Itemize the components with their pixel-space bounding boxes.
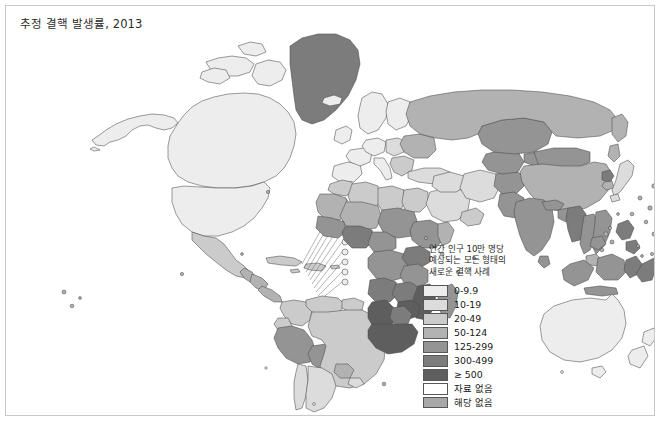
region-alaska [92,114,178,146]
region-uk-ireland [334,126,352,144]
legend-item-300-499[interactable]: 300-499 [423,354,548,367]
region-somalia [438,222,454,246]
region-philippines-luzon [616,220,634,240]
region-north-korea [602,170,614,182]
legend-item-no-data[interactable]: 자료 없음 [423,382,548,395]
region-sakhalin [608,144,620,162]
legend-swatch [423,299,448,310]
legend-heading-line-2: 예상되는 모든 형태의 [429,255,548,266]
region-kamchatka [612,114,628,142]
legend-label: ≥ 500 [454,369,483,380]
region-sumatra [562,260,594,286]
region-scandinavia [358,92,388,134]
figure-frame: 추정 결핵 발생률, 2013 [5,5,655,416]
legend-swatch [423,285,448,296]
region-ellesmere [238,42,266,56]
legend-item-125-299[interactable]: 125-299 [423,340,548,353]
region-new-zealand-south [628,346,648,368]
legend-label: 300-499 [454,355,493,366]
world-map[interactable] [6,6,655,416]
legend-label: 125-299 [454,341,493,352]
world-map-svg[interactable] [6,6,655,416]
region-tasmania [592,366,606,378]
legend-swatch [423,383,448,394]
legend-heading-line-3: 새로운 결핵 사례 [429,267,548,278]
region-italy [374,158,392,180]
region-jamaica [290,269,300,273]
region-baffin [252,60,286,86]
region-canada [168,93,296,188]
legend-swatch [423,355,448,366]
region-victoria-island [200,68,230,84]
region-borneo [596,254,626,280]
region-new-zealand-north [642,328,655,346]
region-egypt [402,188,428,212]
legend-heading: 연간 인구 10만 명당 예상되는 모든 형태의 새로운 결핵 사례 [429,244,548,278]
legend-swatch [423,397,448,408]
legend-item-20-49[interactable]: 20-49 [423,312,548,325]
region-ukraine-belarus [400,134,436,158]
legend-heading-line-1: 연간 인구 10만 명당 [429,244,548,255]
legend-swatch [423,341,448,352]
region-usa [172,182,270,236]
legend-item-0-9.9[interactable]: 0-9.9 [423,284,548,297]
legend-label: 10-19 [454,299,481,310]
region-japan-kyushu [610,194,620,202]
map-legend: 연간 인구 10만 명당 예상되는 모든 형태의 새로운 결핵 사례 0-9.9… [423,244,548,410]
region-australia [540,294,626,362]
legend-item-not-applicable[interactable]: 해당 없음 [423,396,548,409]
legend-swatch [423,313,448,324]
legend-label: 해당 없음 [454,397,493,408]
region-japan [612,160,634,196]
region-cuba [266,256,302,266]
region-afghanistan [494,170,524,194]
legend-item-10-19[interactable]: 10-19 [423,298,548,311]
legend-swatch [423,327,448,338]
region-guinea-coast [316,216,346,238]
legend-label: 50-124 [454,327,487,338]
legend-item-500-plus[interactable]: ≥ 500 [423,368,548,381]
region-north-america [90,34,360,302]
legend-label: 20-49 [454,313,481,324]
legend-label: 자료 없음 [454,383,493,394]
region-aleutians [90,147,100,151]
region-greenland [290,34,360,124]
region-java [584,286,618,296]
legend-item-50-124[interactable]: 50-124 [423,326,548,339]
region-costa-rica-panama [258,286,282,302]
legend-swatch [423,369,448,380]
legend-label: 0-9.9 [454,285,478,296]
